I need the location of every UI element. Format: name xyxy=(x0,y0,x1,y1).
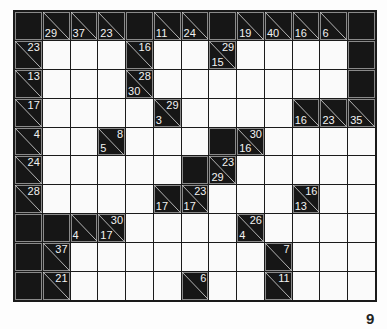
entry-cell[interactable] xyxy=(182,128,209,156)
clue-cell: 24 xyxy=(15,156,42,184)
entry-cell[interactable] xyxy=(293,214,320,242)
entry-cell[interactable] xyxy=(71,156,98,184)
entry-cell[interactable] xyxy=(98,99,125,127)
entry-cell[interactable] xyxy=(237,272,264,300)
entry-cell[interactable] xyxy=(154,41,181,69)
entry-cell[interactable] xyxy=(237,185,264,213)
entry-cell[interactable] xyxy=(320,70,347,98)
entry-cell[interactable] xyxy=(182,99,209,127)
clue-cell: 23 xyxy=(320,99,347,127)
entry-cell[interactable] xyxy=(43,185,70,213)
entry-cell[interactable] xyxy=(71,272,98,300)
clue-cell: 6 xyxy=(182,272,209,300)
clue-cell: 11 xyxy=(154,12,181,40)
entry-cell[interactable] xyxy=(265,41,292,69)
entry-cell[interactable] xyxy=(126,214,153,242)
entry-cell[interactable] xyxy=(182,70,209,98)
entry-cell[interactable] xyxy=(348,185,375,213)
entry-cell[interactable] xyxy=(293,41,320,69)
clue-cell: 37 xyxy=(43,243,70,271)
entry-cell[interactable] xyxy=(71,243,98,271)
entry-cell[interactable] xyxy=(126,185,153,213)
clue-cell: 23 xyxy=(98,12,125,40)
entry-cell[interactable] xyxy=(348,128,375,156)
entry-cell[interactable] xyxy=(71,185,98,213)
blocked-cell xyxy=(43,214,70,242)
entry-cell[interactable] xyxy=(265,99,292,127)
entry-cell[interactable] xyxy=(348,214,375,242)
entry-cell[interactable] xyxy=(209,70,236,98)
entry-cell[interactable] xyxy=(43,99,70,127)
entry-cell[interactable] xyxy=(348,243,375,271)
blocked-cell xyxy=(348,12,375,40)
entry-cell[interactable] xyxy=(126,128,153,156)
down-clue: 29 xyxy=(211,172,223,183)
clue-cell: 2317 xyxy=(182,185,209,213)
entry-cell[interactable] xyxy=(320,128,347,156)
entry-cell[interactable] xyxy=(154,243,181,271)
entry-cell[interactable] xyxy=(154,156,181,184)
entry-cell[interactable] xyxy=(126,99,153,127)
entry-cell[interactable] xyxy=(237,99,264,127)
entry-cell[interactable] xyxy=(209,272,236,300)
entry-cell[interactable] xyxy=(98,156,125,184)
across-clue: 6 xyxy=(200,273,206,284)
entry-cell[interactable] xyxy=(154,272,181,300)
entry-cell[interactable] xyxy=(98,70,125,98)
entry-cell[interactable] xyxy=(265,128,292,156)
entry-cell[interactable] xyxy=(98,41,125,69)
entry-cell[interactable] xyxy=(265,156,292,184)
entry-cell[interactable] xyxy=(209,214,236,242)
entry-cell[interactable] xyxy=(126,272,153,300)
entry-cell[interactable] xyxy=(293,272,320,300)
entry-cell[interactable] xyxy=(320,156,347,184)
entry-cell[interactable] xyxy=(209,185,236,213)
entry-cell[interactable] xyxy=(237,156,264,184)
entry-cell[interactable] xyxy=(293,156,320,184)
entry-cell[interactable] xyxy=(43,156,70,184)
entry-cell[interactable] xyxy=(237,41,264,69)
entry-cell[interactable] xyxy=(265,214,292,242)
entry-cell[interactable] xyxy=(320,41,347,69)
entry-cell[interactable] xyxy=(293,243,320,271)
entry-cell[interactable] xyxy=(209,243,236,271)
entry-cell[interactable] xyxy=(154,128,181,156)
entry-cell[interactable] xyxy=(154,70,181,98)
entry-cell[interactable] xyxy=(348,156,375,184)
entry-cell[interactable] xyxy=(98,185,125,213)
across-clue: 28 xyxy=(139,71,151,82)
entry-cell[interactable] xyxy=(293,128,320,156)
across-clue: 23 xyxy=(194,186,206,197)
entry-cell[interactable] xyxy=(293,70,320,98)
entry-cell[interactable] xyxy=(265,70,292,98)
entry-cell[interactable] xyxy=(126,243,153,271)
entry-cell[interactable] xyxy=(320,214,347,242)
entry-cell[interactable] xyxy=(71,41,98,69)
down-clue: 16 xyxy=(239,143,251,154)
entry-cell[interactable] xyxy=(71,70,98,98)
entry-cell[interactable] xyxy=(209,99,236,127)
entry-cell[interactable] xyxy=(237,70,264,98)
entry-cell[interactable] xyxy=(43,128,70,156)
entry-cell[interactable] xyxy=(71,128,98,156)
entry-cell[interactable] xyxy=(182,41,209,69)
entry-cell[interactable] xyxy=(154,214,181,242)
entry-cell[interactable] xyxy=(71,99,98,127)
entry-cell[interactable] xyxy=(237,243,264,271)
entry-cell[interactable] xyxy=(43,70,70,98)
entry-cell[interactable] xyxy=(98,243,125,271)
entry-cell[interactable] xyxy=(265,185,292,213)
entry-cell[interactable] xyxy=(348,272,375,300)
entry-cell[interactable] xyxy=(320,185,347,213)
entry-cell[interactable] xyxy=(320,272,347,300)
entry-cell[interactable] xyxy=(126,156,153,184)
entry-cell[interactable] xyxy=(320,243,347,271)
clue-cell: 40 xyxy=(265,12,292,40)
clue-cell: 264 xyxy=(237,214,264,242)
entry-cell[interactable] xyxy=(182,214,209,242)
entry-cell[interactable] xyxy=(43,41,70,69)
entry-cell[interactable] xyxy=(182,243,209,271)
entry-cell[interactable] xyxy=(98,272,125,300)
clue-cell: 19 xyxy=(237,12,264,40)
clue-cell: 1613 xyxy=(293,185,320,213)
